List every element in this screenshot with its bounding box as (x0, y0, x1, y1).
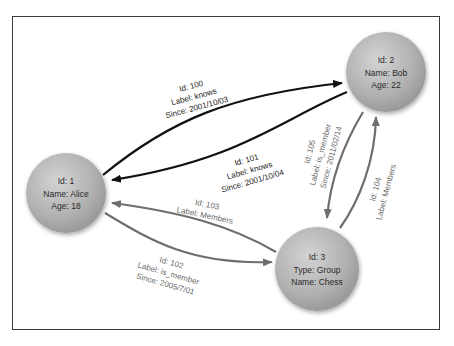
node-chess-id: Id: 3 (309, 252, 326, 262)
node-bob-name: Name: Bob (365, 68, 408, 78)
property-graph: Id: 100 Label: knows Since: 2001/10/03 I… (0, 0, 454, 346)
node-alice-age: Age: 18 (51, 201, 81, 211)
edge-103: Id: 103 Label: Members (112, 194, 276, 252)
edge-105: Id: 105 Label: is_member Since: 2011/02/… (297, 112, 363, 218)
arrow-104 (340, 117, 376, 228)
node-chess-name: Name: Chess (291, 277, 343, 287)
node-bob-age: Age: 22 (371, 80, 401, 90)
node-chess[interactable]: Id: 3 Type: Group Name: Chess (275, 227, 359, 311)
node-alice[interactable]: Id: 1 Name: Alice Age: 18 (26, 153, 106, 233)
edge-104: Id: 104 Label: Members (340, 117, 398, 228)
node-bob[interactable]: Id: 2 Name: Bob Age: 22 (346, 32, 426, 112)
node-chess-type: Type: Group (294, 265, 341, 275)
node-alice-name: Name: Alice (43, 189, 89, 199)
edge-102: Id: 102 Label: is_member Since: 2005/7/0… (105, 213, 272, 297)
node-alice-id: Id: 1 (58, 176, 75, 186)
node-bob-id: Id: 2 (378, 55, 395, 65)
